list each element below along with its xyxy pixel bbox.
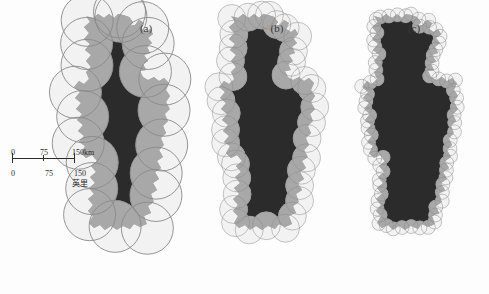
scale-label-km-0: 0 [11, 148, 15, 157]
scale-label-km-150: 150km [72, 148, 95, 157]
panel-b [205, 1, 329, 244]
panel-a [49, 0, 190, 254]
coastline-fractal-figure: (a) (b) (c) 0 75 150km 0 75 150 英里 [0, 0, 489, 294]
panel-label-c: (c) [408, 22, 421, 35]
scale-label-mi-75: 75 [45, 169, 53, 178]
scale-unit-miles: 英里 [72, 178, 88, 188]
scale-label-mi-150: 150 [74, 169, 86, 178]
scale-label-mi-0: 0 [11, 169, 15, 178]
scale-label-km-75: 75 [40, 148, 48, 157]
panel-content-b [205, 1, 329, 244]
panel-content-a [49, 0, 190, 254]
panel-label-a: (a) [140, 22, 153, 35]
panel-label-b: (b) [271, 22, 284, 35]
